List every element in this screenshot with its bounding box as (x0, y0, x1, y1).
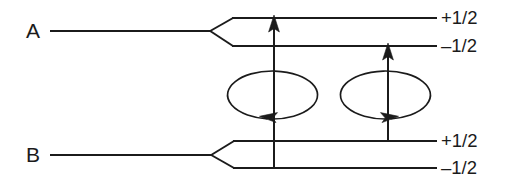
transition-arrow-left (269, 15, 280, 168)
state-group-a: A +1/2 –1/2 (26, 7, 478, 56)
state-group-b: B +1/2 –1/2 (26, 130, 478, 178)
state-label-a: A (26, 19, 40, 42)
diagram-canvas: A +1/2 –1/2 B +1/2 –1/2 (0, 0, 505, 185)
energy-level-diagram: A +1/2 –1/2 B +1/2 –1/2 (0, 0, 505, 185)
state-b-level-label-lower: –1/2 (441, 157, 477, 178)
spin-loop-right-ellipse (340, 71, 430, 119)
state-b-fork-leg-upper (211, 141, 234, 155)
state-b-level-label-upper: +1/2 (441, 130, 478, 151)
transition-arrow-right (383, 43, 394, 141)
state-a-level-label-lower: –1/2 (441, 35, 477, 56)
state-a-fork-leg-upper (210, 18, 233, 31)
state-label-b: B (26, 143, 40, 166)
spin-loop-right-arrowhead (381, 113, 399, 123)
spin-loop-left-ellipse (228, 71, 318, 119)
state-a-level-label-upper: +1/2 (441, 7, 478, 28)
state-b-fork-leg-lower (211, 155, 234, 168)
spin-loop-right (340, 71, 430, 123)
state-a-fork-leg-lower (210, 31, 233, 46)
spin-loop-left (228, 71, 318, 123)
